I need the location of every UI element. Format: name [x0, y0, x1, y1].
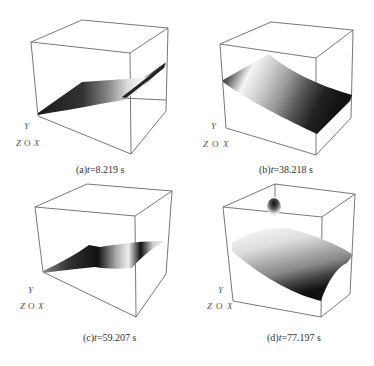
axis-z-label-b: Z — [203, 140, 208, 149]
axis-y-label-d: Y — [218, 286, 223, 295]
axis-x-label-a: X — [34, 139, 40, 148]
axis-x-label-b: X — [223, 140, 229, 149]
axis-origin-label-d: O — [216, 302, 223, 311]
axis-origin-label-a: O — [24, 139, 31, 148]
axis-x-label-d: X — [227, 302, 233, 311]
caption-c: (c)t=59.207 s — [83, 332, 136, 343]
panel-c: Y Z O X (c)t=59.207 s — [0, 183, 187, 366]
axis-z-label-a: Z — [16, 139, 21, 148]
axis-origin-label-b: O — [212, 140, 219, 149]
axis-x-label-c: X — [38, 302, 44, 311]
axis-y-label-c: Y — [28, 286, 33, 295]
cube-plot-b — [187, 0, 374, 183]
panel-a: Y Z O X (a)t=8.219 s — [0, 0, 187, 183]
panel-d: Y Z O X (d)t=77.197 s — [187, 183, 374, 366]
axis-z-label-c: Z — [20, 302, 25, 311]
axis-origin-label-c: O — [28, 302, 35, 311]
caption-a: (a)t=8.219 s — [76, 164, 124, 175]
caption-d: (d)t=77.197 s — [267, 332, 321, 343]
axis-z-label-d: Z — [207, 302, 212, 311]
caption-b: (b)t=38.218 s — [259, 164, 313, 175]
panel-b: Y Z O X (b)t=38.218 s — [187, 0, 374, 183]
axis-y-label-a: Y — [24, 122, 29, 131]
axis-y-label-b: Y — [211, 122, 216, 131]
cube-plot-a — [0, 0, 187, 183]
